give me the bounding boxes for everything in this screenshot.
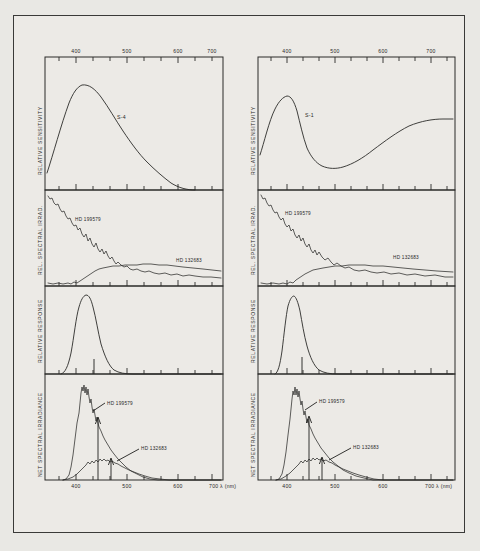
panel-right-sensitivity: 400 500 600 700 bbox=[250, 48, 455, 190]
spectrum-hd132683 bbox=[48, 264, 221, 284]
ylabel-rel-spectral-irrad: REL. SPECTRAL IRRAD. bbox=[37, 205, 43, 275]
figure-container: 400 500 600 700 bbox=[13, 15, 465, 533]
ylabel-net-spectral-irradiance: NET SPECTRAL IRRADIANCE bbox=[37, 392, 43, 477]
net-hd199579 bbox=[276, 387, 453, 480]
panel-frame bbox=[45, 286, 223, 374]
bottom-tick-400: 400 bbox=[71, 483, 80, 489]
bottom-tick-600: 600 bbox=[378, 483, 387, 489]
ylabel-relative-sensitivity: RELATIVE SENSITIVITY bbox=[250, 106, 256, 175]
net-star-label-hd199579: HD 199579 bbox=[319, 399, 345, 404]
ylabel-net-spectral-irradiance: NET SPECTRAL IRRADIANCE bbox=[250, 392, 256, 477]
star-label-hd199579: HD 199579 bbox=[285, 211, 311, 216]
panel-right-response: RELATIVE RESPONSE bbox=[250, 286, 455, 374]
panel-frame bbox=[258, 190, 455, 286]
x-axis-label-left: 700 λ (nm) bbox=[209, 483, 236, 489]
ylabel-relative-response: RELATIVE RESPONSE bbox=[37, 299, 43, 363]
net-star-label-hd199579: HD 199579 bbox=[107, 401, 133, 406]
row4-bottom-ticks bbox=[59, 474, 212, 480]
column-right: 400 500 600 700 bbox=[250, 48, 455, 489]
x-axis-label-right: 700 λ (nm) bbox=[425, 483, 452, 489]
figure-page: 400 500 600 700 bbox=[0, 0, 480, 551]
leader-line-hd199579 bbox=[305, 402, 317, 410]
top-axis-ticks bbox=[271, 57, 447, 63]
panel-frame bbox=[258, 286, 455, 374]
effective-wavelength-arrow-hd199579 bbox=[95, 417, 100, 480]
panel-frame bbox=[45, 57, 223, 190]
ylabel-rel-spectral-irrad: REL. SPECTRAL IRRAD. bbox=[250, 205, 256, 275]
tick-label-500: 500 bbox=[330, 48, 339, 54]
top-axis-ticks bbox=[59, 57, 212, 63]
tick-label-600: 600 bbox=[173, 48, 182, 54]
panel-frame bbox=[258, 57, 455, 190]
spectrum-hd199579 bbox=[48, 196, 221, 278]
curve-response-left bbox=[61, 295, 221, 374]
net-star-label-hd132683: HD 132683 bbox=[353, 445, 379, 450]
tick-label-600: 600 bbox=[378, 48, 387, 54]
row3-bottom-ticks bbox=[59, 368, 212, 374]
panel-left-irradiance: HD 199579 HD 132683 REL. SPECTRAL IRRAD. bbox=[37, 190, 223, 286]
photocathode-label-s4: S-4 bbox=[117, 114, 126, 120]
leader-line-hd132683 bbox=[329, 448, 351, 460]
leader-line-hd199579 bbox=[93, 403, 105, 411]
net-hd199579 bbox=[63, 385, 221, 480]
panel-frame bbox=[45, 190, 223, 286]
panel-frame bbox=[258, 374, 455, 480]
photocathode-label-s1: S-1 bbox=[305, 112, 314, 118]
row3-bottom-ticks bbox=[271, 368, 447, 374]
panel-left-sensitivity: 400 500 600 700 bbox=[37, 48, 223, 190]
curve-s1 bbox=[260, 96, 453, 168]
effective-wavelength-arrow-hd199579 bbox=[306, 416, 311, 480]
row2-bottom-ticks bbox=[59, 280, 212, 286]
tick-label-500: 500 bbox=[122, 48, 131, 54]
star-label-hd132683: HD 132683 bbox=[176, 258, 202, 263]
row1-bottom-ticks bbox=[59, 184, 212, 190]
panel-left-response: RELATIVE RESPONSE bbox=[37, 286, 223, 374]
tick-label-400: 400 bbox=[71, 48, 80, 54]
spectrum-hd132683 bbox=[261, 265, 453, 284]
spectral-response-figure: 400 500 600 700 bbox=[13, 15, 465, 533]
bottom-tick-500: 500 bbox=[330, 483, 339, 489]
net-star-label-hd132683: HD 132683 bbox=[141, 446, 167, 451]
bottom-tick-600: 600 bbox=[173, 483, 182, 489]
panel-right-irradiance: HD 199579 HD 132683 REL. SPECTRAL IRRAD. bbox=[250, 190, 455, 286]
ylabel-relative-response: RELATIVE RESPONSE bbox=[250, 299, 256, 363]
leader-line-hd132683 bbox=[117, 449, 139, 461]
column-left: 400 500 600 700 bbox=[37, 48, 236, 489]
ylabel-relative-sensitivity: RELATIVE SENSITIVITY bbox=[37, 106, 43, 175]
row2-bottom-ticks bbox=[271, 280, 447, 286]
star-label-hd132683: HD 132683 bbox=[393, 255, 419, 260]
row1-bottom-ticks bbox=[271, 184, 447, 190]
tick-label-400: 400 bbox=[282, 48, 291, 54]
panel-right-net: 400 500 600 700 λ (nm) HD 199579 bbox=[250, 374, 455, 489]
tick-label-700: 700 bbox=[426, 48, 435, 54]
bottom-tick-500: 500 bbox=[122, 483, 131, 489]
bottom-tick-400: 400 bbox=[282, 483, 291, 489]
star-label-hd199579: HD 199579 bbox=[75, 217, 101, 222]
panel-left-net: 400 500 600 700 λ (nm) bbox=[37, 374, 236, 489]
curve-s4 bbox=[47, 85, 195, 190]
tick-label-700: 700 bbox=[207, 48, 216, 54]
